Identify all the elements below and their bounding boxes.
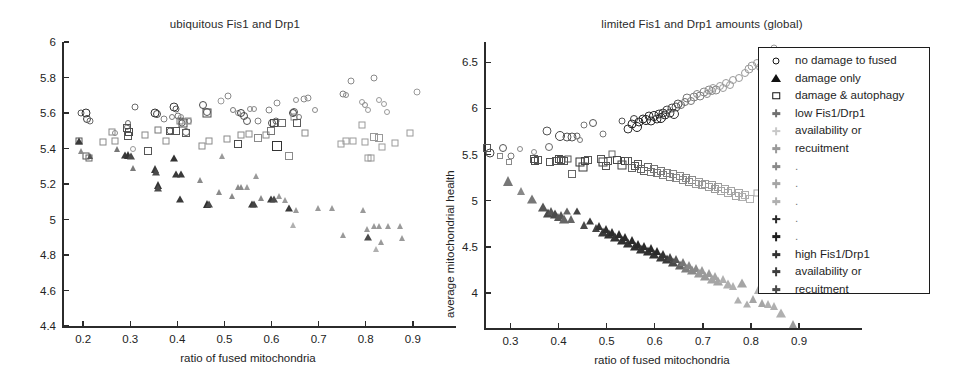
legend-row: low Fis1/Drp1 xyxy=(759,105,929,123)
y-tick xyxy=(64,112,69,113)
legend-label: damage only xyxy=(795,70,861,88)
legend-label: . xyxy=(795,175,798,193)
legend-row: . xyxy=(759,158,929,176)
data-point-circle xyxy=(266,107,273,114)
data-point-circle xyxy=(619,118,626,125)
data-point-circle xyxy=(589,119,597,127)
data-point-square xyxy=(293,119,301,127)
x-tick xyxy=(750,323,751,328)
legend-marker-plus-icon xyxy=(759,228,793,246)
data-point-triangle xyxy=(397,223,403,229)
data-point-triangle xyxy=(789,320,797,328)
data-point-circle xyxy=(371,74,378,81)
legend-row: recuitment xyxy=(759,281,929,299)
y-tick-label: 4.8 xyxy=(14,249,56,261)
data-point-square xyxy=(568,170,576,178)
x-tick xyxy=(558,323,559,328)
data-point-circle xyxy=(225,93,232,100)
data-point-square xyxy=(584,156,592,164)
data-point-square xyxy=(99,139,106,146)
x-tick-label: 0.8 xyxy=(743,335,759,347)
data-point-triangle xyxy=(87,153,93,159)
data-point-square xyxy=(391,140,398,147)
data-point-square xyxy=(604,157,612,165)
legend-marker-plus-icon xyxy=(759,105,793,123)
data-point-circle xyxy=(347,78,354,85)
legend-marker-plus-icon xyxy=(759,175,793,193)
legend-marker-plus-icon xyxy=(759,140,793,158)
data-point-circle xyxy=(255,117,262,124)
data-point-triangle xyxy=(360,207,366,213)
x-tick-label: 0.7 xyxy=(311,333,327,345)
x-axis-line xyxy=(484,328,862,330)
x-tick-label: 0.7 xyxy=(695,335,711,347)
data-point-square xyxy=(125,128,133,136)
legend-label: availability or xyxy=(795,122,861,140)
data-point-circle xyxy=(153,110,161,118)
legend-row: damage & autophagy xyxy=(759,87,929,105)
data-point-triangle xyxy=(378,239,384,245)
y-tick xyxy=(486,108,491,109)
data-point-square xyxy=(142,132,149,139)
x-axis-title: ratio of fused mitochondria xyxy=(180,352,316,364)
data-point-square xyxy=(407,130,414,137)
data-point-triangle xyxy=(329,205,335,211)
data-point-circle xyxy=(87,117,94,124)
data-point-triangle xyxy=(216,189,222,195)
data-point-triangle xyxy=(219,153,225,159)
legend-marker-plus-icon xyxy=(759,246,793,264)
x-axis-title: ratio of fused mitochondria xyxy=(594,354,730,366)
data-point-circle xyxy=(217,98,224,105)
x-tick-label: 0.2 xyxy=(75,333,91,345)
legend-marker-circle-icon xyxy=(759,52,793,70)
legend-label: recuitment xyxy=(795,140,849,158)
data-point-square xyxy=(272,141,282,151)
data-point-triangle xyxy=(293,207,299,213)
data-point-triangle xyxy=(229,193,235,199)
x-tick xyxy=(798,323,799,328)
data-point-triangle xyxy=(78,148,84,154)
x-tick xyxy=(412,321,413,326)
data-point-triangle xyxy=(197,177,203,183)
data-point-triangle xyxy=(503,176,513,186)
legend-label: availability or xyxy=(795,263,861,281)
data-point-square xyxy=(267,127,275,135)
data-point-square xyxy=(278,119,286,127)
data-point-circle xyxy=(545,143,553,151)
x-tick xyxy=(271,321,272,326)
data-point-square xyxy=(349,138,356,145)
legend-label: high Fis1/Drp1 xyxy=(795,246,870,264)
y-axis-line xyxy=(484,42,486,328)
x-tick-label: 0.6 xyxy=(264,333,280,345)
data-point-triangle xyxy=(776,308,786,317)
y-tick xyxy=(64,219,69,220)
data-point-circle xyxy=(381,101,387,107)
data-point-square xyxy=(358,122,365,129)
legend-marker-plus-icon xyxy=(759,210,793,228)
data-point-triangle xyxy=(737,279,747,288)
data-point-circle xyxy=(577,137,583,143)
data-point-triangle xyxy=(75,138,83,145)
x-tick xyxy=(82,321,83,326)
data-point-circle xyxy=(293,97,299,103)
x-tick xyxy=(318,321,319,326)
y-tick-label: 4.6 xyxy=(14,285,56,297)
data-point-triangle xyxy=(385,223,391,229)
data-point-circle xyxy=(243,117,251,125)
data-point-square xyxy=(302,130,309,137)
data-point-triangle xyxy=(373,246,379,252)
legend-label: . xyxy=(795,193,798,211)
x-tick-label: 0.3 xyxy=(502,335,518,347)
legend-label: no damage to fused xyxy=(795,52,897,70)
y-tick xyxy=(486,246,491,247)
data-point-square xyxy=(361,139,368,146)
y-tick xyxy=(486,200,491,201)
data-point-triangle xyxy=(127,153,135,160)
data-point-triangle xyxy=(205,200,213,207)
data-point-triangle xyxy=(177,171,185,178)
data-point-square xyxy=(112,138,119,145)
legend-marker-triangle-icon xyxy=(759,70,793,88)
y-tick xyxy=(486,292,491,293)
x-tick-label: 0.9 xyxy=(405,333,421,345)
y-tick-label: 5 xyxy=(436,195,478,207)
